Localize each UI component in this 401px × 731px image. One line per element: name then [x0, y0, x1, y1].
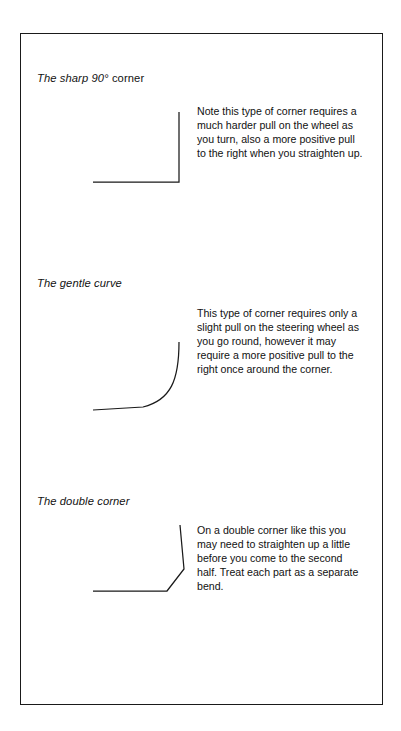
section-title-sharp-90-corner: The sharp 90° corner: [37, 72, 144, 84]
sharp-90-corner-svg: [85, 106, 195, 191]
gentle-curve-path: [93, 342, 179, 410]
section-title-italic-part: The gentle curve: [37, 277, 122, 289]
section-body-sharp-90-corner: Note this type of corner requires a much…: [197, 104, 363, 160]
page-root: The sharp 90° corner Note this type of c…: [0, 0, 401, 731]
page-border-frame: The sharp 90° corner Note this type of c…: [20, 33, 383, 705]
section-title-gentle-curve: The gentle curve: [37, 277, 122, 289]
section-title-double-corner: The double corner: [37, 495, 130, 507]
section-body-double-corner: On a double corner like this you may nee…: [197, 523, 363, 593]
gentle-curve-diagram: [85, 334, 195, 419]
section-body-gentle-curve: This type of corner requires only a slig…: [197, 306, 363, 376]
section-title-italic-part: The double corner: [37, 495, 130, 507]
double-corner-diagram: [85, 519, 195, 604]
sharp-90-corner-diagram: [85, 106, 195, 191]
gentle-curve-svg: [85, 334, 195, 419]
section-title-roman-part: corner: [109, 72, 145, 84]
sharp-corner-path: [93, 112, 179, 182]
double-corner-svg: [85, 519, 195, 604]
double-corner-path: [93, 525, 184, 591]
section-title-italic-part: The sharp 90°: [37, 72, 109, 84]
